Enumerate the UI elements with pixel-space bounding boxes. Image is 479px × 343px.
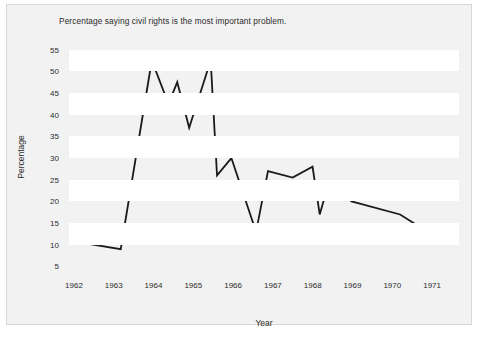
y-tick-label: 5 (55, 262, 59, 271)
y-tick-label: 10 (50, 240, 59, 249)
y-tick-label: 40 (50, 110, 59, 119)
gridline-band (69, 136, 459, 158)
x-tick-label: 1968 (304, 281, 322, 290)
y-tick-label: 50 (50, 67, 59, 76)
gridline-band (69, 93, 459, 115)
x-tick-label: 1971 (423, 281, 441, 290)
x-tick-label: 1969 (344, 281, 362, 290)
y-tick-label: 45 (50, 89, 59, 98)
gridline-band (69, 180, 459, 202)
gridline-band (69, 223, 459, 245)
y-tick-label: 30 (50, 154, 59, 163)
y-axis-label: Percentage (16, 135, 26, 178)
y-tick-label: 20 (50, 197, 59, 206)
x-tick-label: 1967 (264, 281, 282, 290)
x-tick-label: 1963 (105, 281, 123, 290)
x-tick-label: 1964 (145, 281, 163, 290)
chart-page: Percentage saying civil rights is the mo… (0, 0, 479, 343)
x-tick-label: 1965 (184, 281, 202, 290)
x-tick-label: 1970 (383, 281, 401, 290)
x-tick-label: 1962 (65, 281, 83, 290)
y-tick-label: 15 (50, 219, 59, 228)
y-tick-label: 25 (50, 175, 59, 184)
chart-title: Percentage saying civil rights is the mo… (59, 16, 286, 26)
x-tick-label: 1966 (224, 281, 242, 290)
y-tick-label: 35 (50, 132, 59, 141)
y-tick-label: 55 (50, 45, 59, 54)
plot-area (69, 41, 459, 273)
chart-panel: Percentage saying civil rights is the mo… (6, 4, 472, 325)
x-axis-label: Year (255, 318, 272, 328)
gridline-band (69, 50, 459, 72)
